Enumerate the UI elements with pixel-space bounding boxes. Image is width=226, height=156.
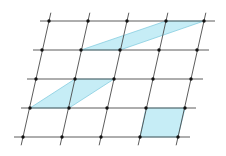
- lattice-point: [189, 77, 192, 80]
- lattice-point: [73, 77, 76, 80]
- lattice-point: [164, 19, 167, 22]
- lattice-point: [202, 19, 205, 22]
- lattice-point: [157, 48, 160, 51]
- top-parallelogram: [81, 21, 204, 50]
- lattice-diagram: [0, 0, 226, 156]
- lattice-point: [138, 135, 141, 138]
- lattice-point: [118, 48, 121, 51]
- lattice-point: [60, 135, 63, 138]
- lattice-point: [28, 106, 31, 109]
- lattice-point: [105, 106, 108, 109]
- lattice-point: [21, 135, 24, 138]
- lattice-point: [195, 48, 198, 51]
- lattice-point: [40, 48, 43, 51]
- lattice-point: [125, 19, 128, 22]
- lattice-point: [99, 135, 102, 138]
- lattice-point: [47, 19, 50, 22]
- lattice-canvas: [0, 0, 226, 156]
- lattice-point: [176, 135, 179, 138]
- lattice-point: [86, 19, 89, 22]
- lattice-point: [34, 77, 37, 80]
- lattice-point: [183, 106, 186, 109]
- lattice-point: [79, 48, 82, 51]
- lattice-point: [151, 77, 154, 80]
- lattice-point: [144, 106, 147, 109]
- lattice-point: [112, 77, 115, 80]
- bottom-cell: [140, 108, 185, 137]
- lattice-point: [67, 106, 70, 109]
